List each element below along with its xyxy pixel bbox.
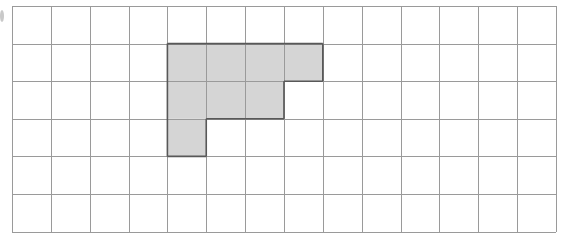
grid-cell-empty bbox=[206, 194, 245, 232]
grid-cell-empty bbox=[51, 194, 90, 232]
grid-cell-empty bbox=[439, 156, 478, 194]
grid-cell-empty bbox=[51, 6, 90, 44]
grid-cell-empty bbox=[323, 81, 362, 119]
grid-cell-empty bbox=[478, 119, 517, 157]
grid-cell-empty bbox=[90, 156, 129, 194]
grid-cell-empty bbox=[51, 81, 90, 119]
grid-cell-empty bbox=[90, 81, 129, 119]
grid-diagram bbox=[0, 0, 567, 246]
grid-cell-empty bbox=[12, 156, 51, 194]
grid-cell-empty bbox=[362, 156, 401, 194]
grid-cell-empty bbox=[90, 119, 129, 157]
grid-cell-shaded bbox=[206, 81, 245, 119]
grid-cell-empty bbox=[517, 44, 556, 82]
grid-cell-empty bbox=[284, 6, 323, 44]
grid-cell-empty bbox=[517, 156, 556, 194]
grid-cell-empty bbox=[323, 44, 362, 82]
grid-cell-empty bbox=[12, 119, 51, 157]
grid-cell-empty bbox=[478, 81, 517, 119]
grid-cell-shaded bbox=[245, 81, 284, 119]
grid-cell-empty bbox=[284, 156, 323, 194]
grid-cell-shaded bbox=[167, 119, 206, 157]
grid-cell-empty bbox=[362, 6, 401, 44]
grid-cell-empty bbox=[517, 119, 556, 157]
grid-cell-shaded bbox=[167, 81, 206, 119]
grid-cell-empty bbox=[90, 44, 129, 82]
grid-cell-empty bbox=[323, 194, 362, 232]
grid-cell-empty bbox=[323, 6, 362, 44]
grid-cell-empty bbox=[517, 194, 556, 232]
grid-cell-empty bbox=[129, 156, 168, 194]
page-edge-mark bbox=[0, 10, 4, 22]
grid-cell-empty bbox=[401, 156, 440, 194]
grid-cell-empty bbox=[401, 6, 440, 44]
grid-cell-empty bbox=[12, 44, 51, 82]
grid-cell-empty bbox=[129, 81, 168, 119]
grid-cell-shaded bbox=[245, 44, 284, 82]
grid-cell-empty bbox=[206, 6, 245, 44]
grid-cell-empty bbox=[245, 119, 284, 157]
grid-cell-empty bbox=[478, 44, 517, 82]
grid-cell-empty bbox=[323, 119, 362, 157]
grid-cell-empty bbox=[284, 119, 323, 157]
grid-figure bbox=[0, 0, 567, 246]
grid-cell-empty bbox=[362, 194, 401, 232]
grid-cell-empty bbox=[245, 6, 284, 44]
grid-cell-empty bbox=[167, 6, 206, 44]
grid-cell-empty bbox=[167, 194, 206, 232]
grid-cell-empty bbox=[323, 156, 362, 194]
grid-cell-empty bbox=[129, 194, 168, 232]
grid-cell-shaded bbox=[167, 44, 206, 82]
grid-cell-empty bbox=[401, 81, 440, 119]
grid-cell-empty bbox=[129, 6, 168, 44]
grid-cell-empty bbox=[517, 6, 556, 44]
grid-cell-empty bbox=[206, 119, 245, 157]
grid-cell-empty bbox=[478, 156, 517, 194]
grid-cell-empty bbox=[90, 6, 129, 44]
grid-cell-empty bbox=[439, 44, 478, 82]
grid-cell-empty bbox=[401, 194, 440, 232]
grid-cell-empty bbox=[401, 44, 440, 82]
grid-cell-empty bbox=[362, 81, 401, 119]
grid-cell-empty bbox=[12, 6, 51, 44]
grid-cell-empty bbox=[51, 44, 90, 82]
grid-cell-empty bbox=[51, 119, 90, 157]
grid-cell-shaded bbox=[284, 44, 323, 82]
grid-cell-empty bbox=[12, 194, 51, 232]
page-edge-mark-layer bbox=[0, 10, 4, 22]
grid-cell-empty bbox=[129, 119, 168, 157]
grid-cell-empty bbox=[245, 194, 284, 232]
grid-cell-empty bbox=[478, 6, 517, 44]
grid-cell-empty bbox=[517, 81, 556, 119]
grid-cell-empty bbox=[51, 156, 90, 194]
grid-cell-empty bbox=[401, 119, 440, 157]
grid-cell-empty bbox=[478, 194, 517, 232]
grid-cell-empty bbox=[245, 156, 284, 194]
grid-cell-empty bbox=[439, 119, 478, 157]
grid-cell-empty bbox=[362, 119, 401, 157]
grid-cell-empty bbox=[206, 156, 245, 194]
grid-cell-empty bbox=[90, 194, 129, 232]
grid-cell-empty bbox=[284, 81, 323, 119]
grid-cell-empty bbox=[284, 194, 323, 232]
grid-cell-empty bbox=[167, 156, 206, 194]
grid-cell-empty bbox=[362, 44, 401, 82]
grid-cell-empty bbox=[12, 81, 51, 119]
grid-cell-empty bbox=[129, 44, 168, 82]
grid-cell-empty bbox=[439, 81, 478, 119]
grid-cell-empty bbox=[439, 194, 478, 232]
grid-cell-empty bbox=[439, 6, 478, 44]
grid-cell-shaded bbox=[206, 44, 245, 82]
